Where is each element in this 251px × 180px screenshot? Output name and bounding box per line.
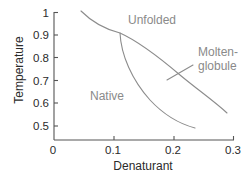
x-tick-label: 0.3	[225, 144, 241, 156]
x-axis-title: Denaturant	[113, 159, 173, 173]
y-tick-label: 1	[43, 7, 49, 19]
y-tick-label: 0.6	[33, 97, 49, 109]
y-tick-label: 0.5	[33, 120, 49, 132]
x-tick-labels: 0 0.1 0.2 0.3	[50, 144, 241, 156]
x-tick-label: 0	[50, 144, 56, 156]
native-region-label: Native	[90, 89, 124, 103]
y-tick-labels: 1 0.9 0.8 0.7 0.6 0.5	[33, 7, 49, 133]
unfolded-region-label: Unfolded	[128, 13, 176, 27]
y-tick-label: 0.8	[33, 52, 49, 64]
y-tick-label: 0.9	[33, 29, 49, 41]
x-tick-label: 0.1	[105, 144, 121, 156]
molten-globule-label-line1: Molten-	[198, 45, 238, 59]
native-boundary-curve	[120, 33, 195, 128]
x-tick-label: 0.2	[165, 144, 181, 156]
y-axis-title: Temperature	[12, 36, 26, 104]
axes	[54, 12, 234, 140]
molten-globule-label-line2: globule	[198, 59, 237, 73]
y-tick-label: 0.7	[33, 75, 49, 87]
phase-diagram-chart: 1 0.9 0.8 0.7 0.6 0.5 0 0.1 0.2 0.3 Dena…	[0, 0, 251, 180]
